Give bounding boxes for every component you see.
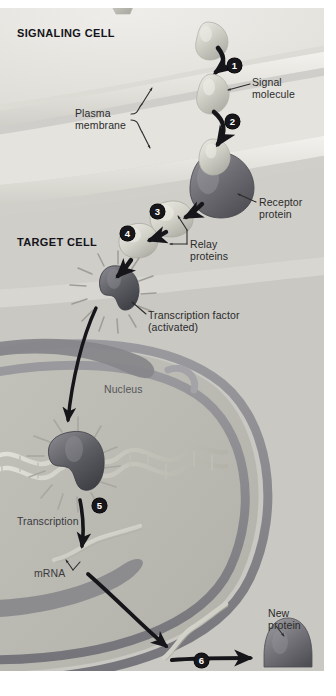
figure-canvas: SIGNALING CELL TARGET CELL Signal molecu… [0,0,336,696]
step-badge-6-number: 6 [199,655,204,666]
step-badge-2: 2 [225,114,240,129]
diagram-artwork [0,8,324,671]
step-badge-1: 1 [227,58,242,73]
signal-molecule-free [197,74,229,114]
step-badge-3: 3 [150,204,165,219]
step-badge-6: 6 [194,653,209,668]
step-badge-2-number: 2 [230,116,235,127]
step-badge-4-number: 4 [125,228,130,239]
step-badge-1-number: 1 [232,60,237,71]
cell-signaling-diagram: SIGNALING CELL TARGET CELL Signal molecu… [0,8,324,671]
step-badge-5-number: 5 [97,500,102,511]
step-badge-3-number: 3 [155,206,160,217]
step-badge-5: 5 [92,498,107,513]
step-badge-4: 4 [120,226,135,241]
